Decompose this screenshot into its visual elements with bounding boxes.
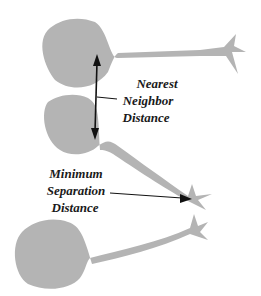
svg-text:Minimum: Minimum [48,166,102,181]
minimum-separation-label: Minimum Separation Distance [47,166,106,215]
nearest-neighbor-label: Nearest Neighbor Distance [122,76,178,125]
svg-text:Separation: Separation [47,183,106,198]
neuron-distance-diagram: Nearest Neighbor Distance Minimum Separa… [0,0,261,296]
svg-text:Neighbor: Neighbor [122,93,175,108]
bottom-neuron [15,214,208,289]
svg-text:Nearest: Nearest [135,76,178,91]
svg-text:Distance: Distance [122,110,170,125]
svg-text:Distance: Distance [51,200,99,215]
